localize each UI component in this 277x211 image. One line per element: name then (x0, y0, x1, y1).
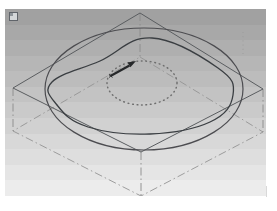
wireframe-scene (5, 9, 266, 196)
sketch-plane-icon-accent (10, 13, 13, 16)
cad-viewport[interactable] (5, 9, 266, 196)
construction-circle[interactable] (107, 61, 177, 105)
page-root (0, 0, 277, 211)
bottom-plane-outline[interactable] (13, 57, 263, 196)
boundary-ellipse[interactable] (45, 28, 243, 150)
sketch-plane-icon (9, 12, 18, 21)
top-plane-outline[interactable] (13, 13, 263, 152)
scan-artifact (266, 186, 267, 197)
